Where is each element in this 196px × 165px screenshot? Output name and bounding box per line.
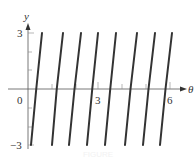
x-axis-arrow-icon xyxy=(180,87,187,92)
x-axis-label: θ xyxy=(188,84,193,95)
y-tick-label-3: 3 xyxy=(17,28,23,39)
figure-caption: FIGURE xyxy=(0,150,196,159)
origin-label: 0 xyxy=(17,95,23,106)
y-axis-arrow-icon xyxy=(26,23,31,30)
y-axis-label: y xyxy=(24,11,29,22)
x-tick-label-3: 3 xyxy=(95,95,101,106)
x-tick-label-6: 6 xyxy=(167,95,173,106)
plot-area xyxy=(0,0,196,165)
